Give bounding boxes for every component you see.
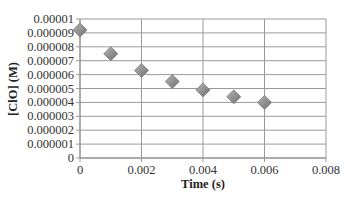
- y-tick-label: 0.000006: [27, 68, 74, 82]
- y-tick-label: 0.000001: [27, 137, 74, 151]
- x-tick-label: 0.006: [250, 163, 278, 177]
- x-tick-label: 0.004: [189, 163, 218, 177]
- diamond-marker: [196, 83, 210, 97]
- diamond-marker: [165, 75, 179, 89]
- diamond-marker: [104, 47, 118, 61]
- y-tick-label: 0.000004: [27, 95, 75, 109]
- y-tick-label: 0.00001: [33, 12, 74, 26]
- scatter-chart: 00.0000010.0000020.0000030.0000040.00000…: [0, 0, 348, 203]
- x-tick-label: 0: [77, 163, 83, 177]
- data-points: [73, 23, 272, 109]
- diamond-marker: [135, 63, 149, 77]
- diamond-marker: [258, 95, 272, 109]
- y-tick-label: 0.000003: [27, 109, 74, 123]
- y-tick-label: 0.000008: [27, 40, 74, 54]
- x-axis-ticks: 00.0020.0040.0060.008: [77, 158, 340, 177]
- x-tick-label: 0.002: [127, 163, 155, 177]
- y-axis-title: [ClO] (M): [6, 62, 20, 116]
- y-tick-label: 0: [68, 151, 74, 165]
- x-tick-label: 0.008: [312, 163, 340, 177]
- diamond-marker: [73, 23, 87, 37]
- y-tick-label: 0.000002: [27, 123, 74, 137]
- y-tick-label: 0.000005: [27, 82, 74, 96]
- x-axis-title: Time (s): [181, 177, 225, 191]
- y-tick-label: 0.000007: [27, 54, 74, 68]
- y-tick-label: 0.000009: [27, 26, 74, 40]
- y-axis-ticks: 00.0000010.0000020.0000030.0000040.00000…: [27, 12, 80, 165]
- diamond-marker: [227, 90, 241, 104]
